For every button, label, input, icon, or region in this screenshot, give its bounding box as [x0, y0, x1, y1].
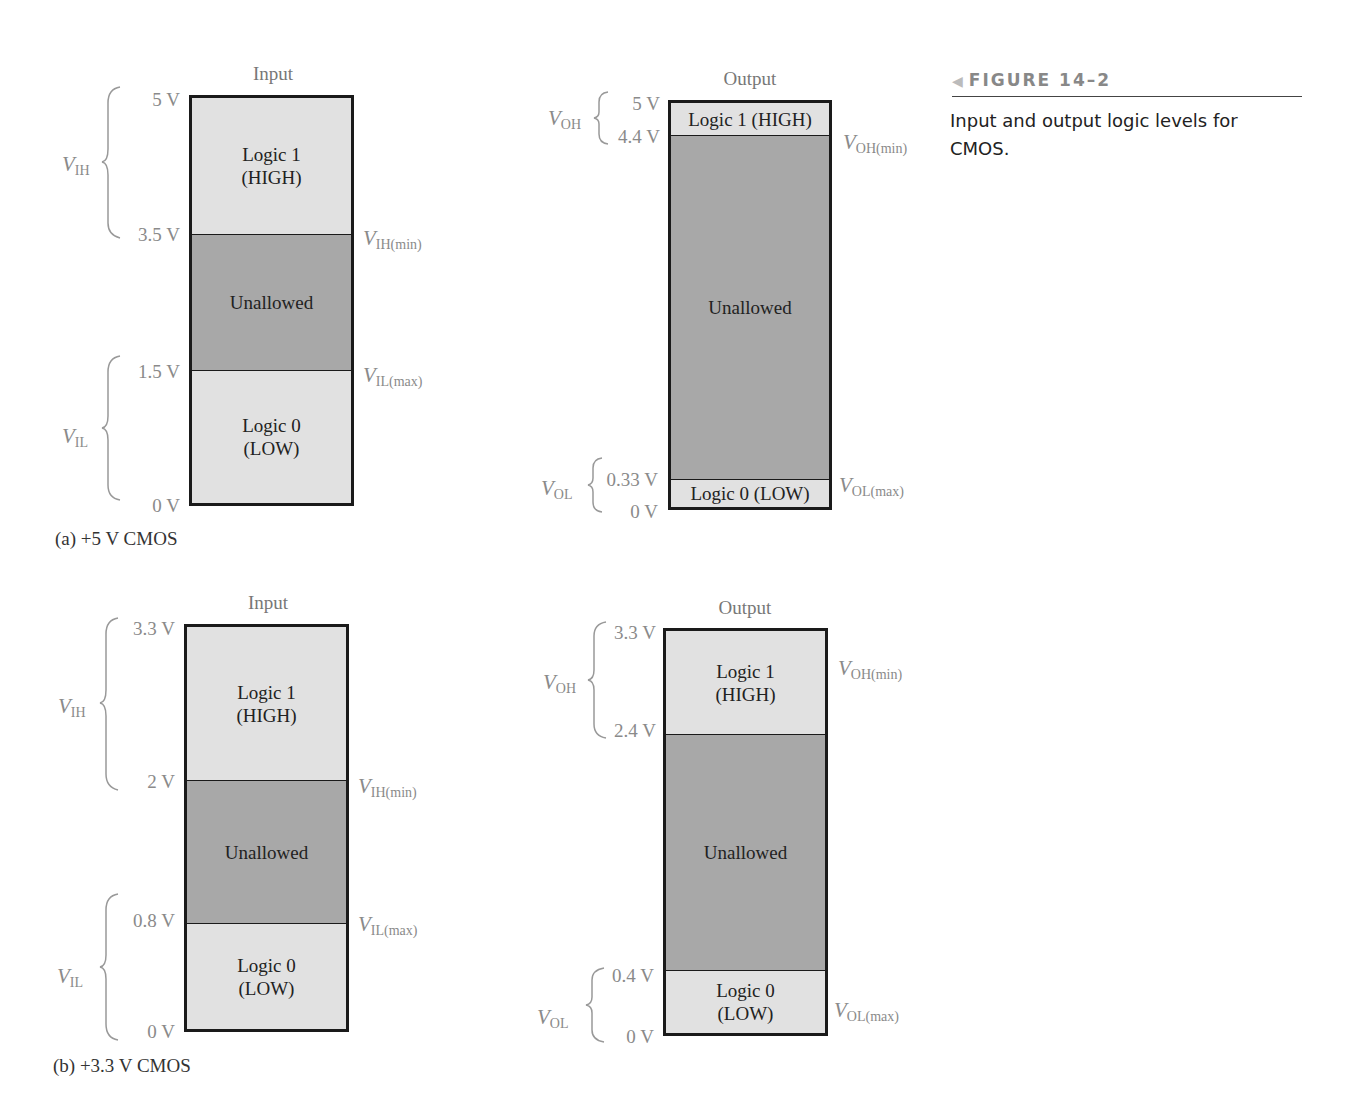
logic-low-zone: Logic 0(LOW): [666, 970, 825, 1033]
output-level-bar: Logic 1(HIGH) Unallowed Logic 0(LOW): [663, 628, 828, 1036]
vih-label: VIH: [58, 694, 86, 721]
tick-3-5v: 3.5 V: [110, 224, 180, 246]
input-level-bar: Logic 1(HIGH) Unallowed Logic 0(LOW): [189, 95, 354, 506]
voh-label: VOH: [543, 670, 576, 697]
voh-min-label: VOH(min): [838, 656, 902, 683]
tick-0v: 0 V: [588, 501, 658, 523]
input-title: Input: [188, 592, 348, 614]
left-triangle-icon: ◀: [952, 73, 963, 89]
tick-4-4v: 4.4 V: [590, 126, 660, 148]
logic-high-zone: Logic 1(HIGH): [666, 631, 825, 734]
tick-0-4v: 0.4 V: [584, 965, 654, 987]
tick-1-5v: 1.5 V: [110, 361, 180, 383]
figure-caption: Input and output logic levels for CMOS.: [950, 107, 1300, 163]
vil-label: VIL: [62, 424, 88, 451]
tick-5v: 5 V: [590, 93, 660, 115]
figure-number: ◀FIGURE 14–2: [952, 70, 1302, 97]
vol-label: VOL: [537, 1005, 569, 1032]
input-title: Input: [193, 63, 353, 85]
panel-b-caption: (b) +3.3 V CMOS: [53, 1055, 191, 1077]
vil-max-label: VIL(max): [358, 912, 417, 939]
tick-0v: 0 V: [105, 1021, 175, 1043]
unallowed-zone: Unallowed: [192, 234, 351, 370]
unallowed-zone: Unallowed: [671, 135, 829, 479]
unallowed-zone: Unallowed: [666, 734, 825, 970]
output-title: Output: [665, 597, 825, 619]
output-level-bar: Logic 1 (HIGH) Unallowed Logic 0 (LOW): [668, 100, 832, 510]
vol-max-label: VOL(max): [834, 998, 899, 1025]
vil-label: VIL: [57, 964, 83, 991]
vih-label: VIH: [62, 152, 90, 179]
tick-3-3v: 3.3 V: [105, 618, 175, 640]
tick-2-4v: 2.4 V: [586, 720, 656, 742]
tick-3-3v: 3.3 V: [586, 622, 656, 644]
logic-low-zone: Logic 0 (LOW): [671, 479, 829, 507]
input-level-bar: Logic 1(HIGH) Unallowed Logic 0(LOW): [184, 624, 349, 1032]
logic-high-zone: Logic 1(HIGH): [187, 627, 346, 780]
output-title: Output: [670, 68, 830, 90]
unallowed-zone: Unallowed: [187, 780, 346, 923]
logic-high-zone: Logic 1 (HIGH): [671, 103, 829, 135]
voh-min-label: VOH(min): [843, 130, 907, 157]
vih-brace-icon: [98, 616, 122, 792]
vol-max-label: VOL(max): [839, 473, 904, 500]
vih-min-label: VIH(min): [358, 774, 417, 801]
vol-label: VOL: [541, 476, 573, 503]
voh-label: VOH: [548, 106, 581, 133]
vil-max-label: VIL(max): [363, 363, 422, 390]
tick-0v: 0 V: [584, 1026, 654, 1048]
tick-0v: 0 V: [110, 495, 180, 517]
tick-0-8v: 0.8 V: [105, 910, 175, 932]
logic-low-zone: Logic 0(LOW): [192, 370, 351, 503]
tick-5v: 5 V: [110, 89, 180, 111]
logic-low-zone: Logic 0(LOW): [187, 923, 346, 1029]
tick-2v: 2 V: [105, 771, 175, 793]
panel-a-caption: (a) +5 V CMOS: [55, 528, 177, 550]
vih-min-label: VIH(min): [363, 226, 422, 253]
tick-0-33v: 0.33 V: [588, 469, 658, 491]
logic-high-zone: Logic 1(HIGH): [192, 98, 351, 234]
